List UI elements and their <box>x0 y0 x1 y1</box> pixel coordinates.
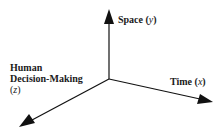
y-axis-arrowhead-icon <box>104 9 114 24</box>
z-axis-label-line2: Decision-Making <box>10 73 83 84</box>
z-axis-arrowhead-icon <box>19 114 35 127</box>
y-axis-label-text: Space <box>118 14 143 25</box>
y-axis-label: Space (y) <box>118 14 157 25</box>
z-axis-var: z <box>13 84 17 95</box>
z-axis-label-line1: Human <box>10 62 83 73</box>
x-axis-arrowhead-icon <box>197 94 213 104</box>
z-axis-label: Human Decision-Making (z) <box>10 62 83 95</box>
x-axis-label: Time (x) <box>170 76 206 87</box>
y-axis-var: y <box>149 14 153 25</box>
x-axis-var: x <box>198 76 202 87</box>
x-axis-label-text: Time <box>170 76 192 87</box>
